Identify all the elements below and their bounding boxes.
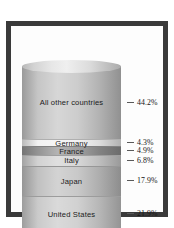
tick-mark-icon: [127, 150, 134, 151]
value-row: 6.8%: [127, 155, 174, 165]
value-row: 4.9%: [127, 146, 174, 156]
segment-value-label: 21.9%: [137, 209, 158, 218]
segment-label: Japan: [61, 177, 82, 186]
cylinder-segment: United States: [22, 196, 121, 228]
value-row: 21.9%: [127, 209, 174, 219]
segment-value-label: 17.9%: [137, 176, 158, 185]
tick-mark-icon: [127, 142, 134, 143]
cylinder-segment: France: [22, 146, 121, 154]
cylinder-segment: Italy: [22, 155, 121, 166]
segment-label: France: [59, 147, 84, 156]
segment-value-label: 6.8%: [137, 156, 154, 165]
cylinder-segment: Germany: [22, 139, 121, 146]
chart-figure: All other countriesGermanyFranceItalyJap…: [0, 0, 174, 228]
tick-mark-icon: [127, 213, 134, 214]
value-label-column: 44.2%4.3%4.9%6.8%17.9%21.9%: [127, 60, 174, 228]
cylinder-top-cap: [22, 60, 121, 73]
value-row: 44.2%: [127, 98, 174, 108]
cylinder-segment: All other countries: [22, 66, 121, 139]
tick-mark-icon: [127, 102, 134, 103]
tick-mark-icon: [127, 160, 134, 161]
segment-label: All other countries: [40, 98, 104, 107]
segment-value-label: 4.9%: [137, 146, 154, 155]
tick-mark-icon: [127, 180, 134, 181]
stacked-cylinder-chart: All other countriesGermanyFranceItalyJap…: [22, 60, 121, 228]
segment-value-label: 44.2%: [137, 98, 158, 107]
segment-label: Italy: [64, 156, 79, 165]
chart-frame: All other countriesGermanyFranceItalyJap…: [6, 21, 168, 217]
chart-plot-area: All other countriesGermanyFranceItalyJap…: [11, 26, 163, 212]
cylinder-segment-stack: All other countriesGermanyFranceItalyJap…: [22, 66, 121, 228]
segment-label: United States: [48, 210, 96, 219]
value-row: 17.9%: [127, 176, 174, 186]
cylinder-segment: Japan: [22, 166, 121, 196]
